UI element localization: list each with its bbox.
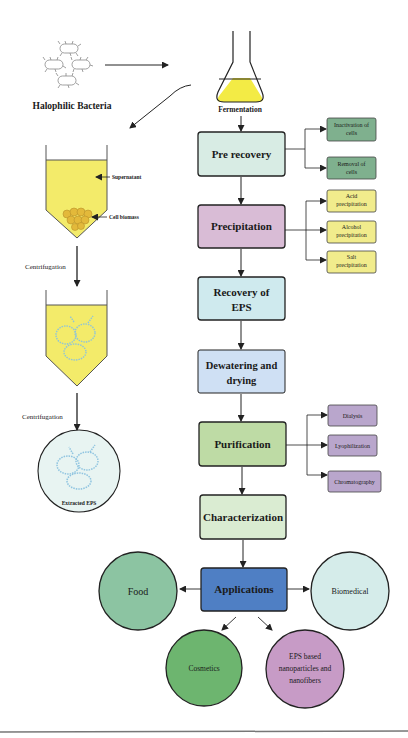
- fermentation-label: Fermentation: [218, 105, 263, 114]
- application-nano-line3: nanofibers: [289, 676, 321, 685]
- sub-chromatography-label: Chromatography: [334, 479, 375, 485]
- pre-recovery-branches: [285, 129, 326, 168]
- step-applications: Applications: [201, 568, 287, 611]
- application-eps-nanoparticles: EPS based nanoparticles and nanofibers: [266, 630, 344, 708]
- step-recovery-line1: Recovery of: [214, 286, 270, 298]
- sub-inactivation-line1: Inactivation of: [334, 122, 369, 128]
- step-recovery-line2: EPS: [231, 301, 251, 313]
- sub-acid-line1: Acid: [346, 193, 358, 199]
- cell-biomass-label: Cell biomass: [109, 214, 139, 220]
- step-dewatering-line2: drying: [227, 375, 258, 386]
- sub-alcohol-line2: precipitation: [336, 232, 366, 238]
- sub-removal-line2: cells: [346, 169, 358, 175]
- sub-salt-line1: Salt: [347, 254, 357, 260]
- sub-inactivation-of-cells: Inactivation of cells: [327, 118, 376, 141]
- step-purification: Purification: [199, 422, 286, 466]
- application-food-label: Food: [128, 586, 149, 597]
- centrifuge-tube-2-icon: [46, 290, 107, 386]
- sub-removal-of-cells: Removal of cells: [327, 157, 376, 179]
- step-pre-recovery-label: Pre recovery: [212, 148, 272, 160]
- sub-acid-precipitation: Acid precipitation: [327, 190, 376, 212]
- sub-acid-line2: precipitation: [336, 201, 366, 207]
- extracted-eps-label: Extracted EPS: [62, 500, 97, 506]
- sub-dialysis-label: Dialysis: [343, 413, 363, 419]
- step-applications-label: Applications: [214, 583, 274, 595]
- sub-dialysis: Dialysis: [328, 405, 377, 426]
- bacteria-icon: [43, 41, 93, 88]
- sub-lyophilization: Lyophilization: [328, 435, 377, 456]
- sub-alcohol-precipitation: Alcohol precipitation: [327, 221, 376, 243]
- application-nano-line2: nanoparticles and: [279, 664, 332, 673]
- centrifuge-tube-1-icon: [46, 145, 107, 238]
- step-recovery-of-eps: Recovery of EPS: [198, 277, 285, 320]
- step-dewatering-and-drying: Dewatering and drying: [198, 350, 285, 393]
- step-pre-recovery: Pre recovery: [198, 132, 285, 176]
- sub-lyophilization-label: Lyophilization: [335, 443, 370, 449]
- step-characterization: Characterization: [200, 495, 286, 539]
- application-food: Food: [99, 552, 177, 630]
- arrow-to-centrifuge: [130, 85, 191, 128]
- centrifugation-label-1: Centrifugation: [25, 263, 66, 271]
- application-nano-line1: EPS based: [289, 652, 321, 661]
- fermentation-flask-icon: [217, 31, 263, 102]
- precipitation-branches: [285, 201, 326, 260]
- application-biomedical: Biomedical: [311, 552, 389, 630]
- step-precipitation-label: Precipitation: [211, 220, 272, 232]
- step-precipitation: Precipitation: [198, 205, 285, 248]
- arrow-to-nanoparticles: [258, 617, 272, 630]
- eps-production-flowchart: Halophilic Bacteria Fermentation Superna…: [0, 0, 408, 738]
- bottom-divider: [0, 731, 408, 732]
- supernatant-label: Supernatant: [112, 174, 142, 180]
- centrifugation-label-2: Centrifugation: [22, 413, 63, 421]
- sub-salt-precipitation: Salt precipitation: [327, 251, 376, 273]
- step-purification-label: Purification: [214, 438, 270, 450]
- step-characterization-label: Characterization: [203, 511, 283, 523]
- application-cosmetics: Cosmetics: [166, 630, 242, 706]
- step-dewatering-line1: Dewatering and: [206, 360, 278, 371]
- bacteria-label: Halophilic Bacteria: [33, 101, 112, 111]
- sub-removal-line1: Removal of: [337, 161, 365, 167]
- application-biomedical-label: Biomedical: [332, 587, 370, 596]
- application-cosmetics-label: Cosmetics: [188, 664, 219, 673]
- sub-alcohol-line1: Alcohol: [342, 224, 362, 230]
- purification-branches: [286, 415, 327, 475]
- sub-salt-line2: precipitation: [336, 262, 366, 268]
- arrow-to-cosmetics: [222, 617, 236, 630]
- sub-chromatography: Chromatography: [328, 471, 381, 492]
- sub-inactivation-line2: cells: [346, 130, 358, 136]
